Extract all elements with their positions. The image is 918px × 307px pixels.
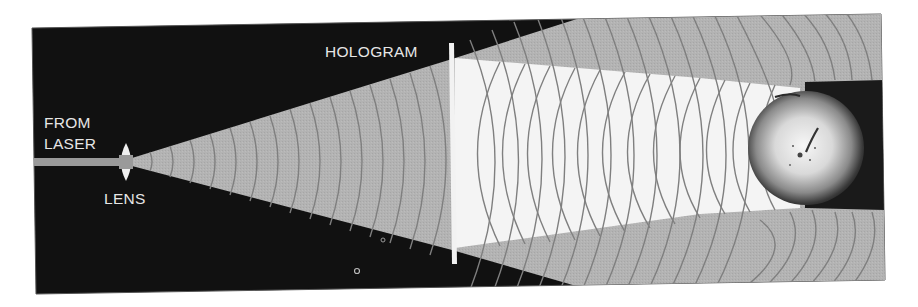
laser-beam [34, 158, 124, 166]
apple-object [748, 91, 864, 205]
hologram-diagram: FROM LASER LENS HOLOGRAM [0, 0, 918, 307]
label-lens: LENS [104, 190, 146, 207]
label-from: FROM [44, 114, 91, 131]
label-hologram: HOLOGRAM [325, 43, 418, 60]
label-laser: LASER [44, 135, 96, 152]
